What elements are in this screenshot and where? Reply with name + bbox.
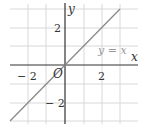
y-tick-neg2: − 2: [45, 97, 65, 110]
x-tick-neg2: − 2: [17, 70, 37, 83]
x-tick-2: 2: [98, 70, 105, 83]
y-tick-2: 2: [54, 22, 61, 35]
x-axis-label: x: [131, 50, 138, 64]
grid: [10, 4, 138, 124]
y-axis-label: y: [67, 2, 75, 16]
origin-label: O: [53, 67, 63, 81]
line-equation-label: y = x: [97, 44, 127, 57]
coordinate-plane: y x O 2 − 2 − 2 2 y = x: [0, 0, 143, 126]
